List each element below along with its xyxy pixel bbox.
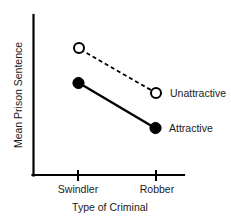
series-line-attractive [79,83,155,128]
data-point-unattractive-robber [151,88,161,98]
x-axis-title: Type of Criminal [72,201,148,213]
data-point-attractive-swindler [73,77,84,88]
x-tick-label-robber: Robber [140,183,175,195]
line-chart-canvas: Unattractive Attractive Swindler Robber … [0,0,231,222]
series-label-unattractive: Unattractive [170,87,226,99]
series-unattractive [74,43,161,98]
chart-figure: Unattractive Attractive Swindler Robber … [0,0,231,222]
y-axis-title: Mean Prison Sentence [12,42,24,148]
x-tick-label-swindler: Swindler [58,183,99,195]
series-attractive [73,77,161,133]
series-line-unattractive [81,50,154,92]
data-point-unattractive-swindler [74,43,84,53]
data-point-attractive-robber [150,122,161,133]
series-label-attractive: Attractive [169,122,213,134]
